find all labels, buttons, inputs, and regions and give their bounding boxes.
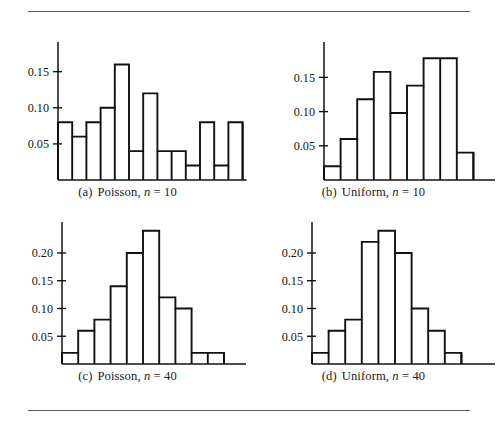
caption-b-text: Uniform, (342, 185, 389, 199)
histogram-panel-c: 0.050.100.150.20 (c)Poisson, n = 40 (6, 210, 249, 396)
histogram-svg-c: 0.050.100.150.20 (6, 210, 249, 372)
y-tick-label-0.15: 0.15 (294, 71, 315, 85)
y-tick-label-0.05: 0.05 (32, 330, 53, 344)
caption-b: (b)Uniform, n = 10 (252, 185, 495, 200)
histogram-panel-b: 0.050.100.15 (b)Uniform, n = 10 (252, 28, 495, 214)
figure-container: 0.050.100.15 (a)Poisson, n = 10 0.050.10… (0, 0, 498, 426)
caption-c-var: n (144, 369, 150, 383)
histogram-panel-d: 0.050.100.150.20 (d)Uniform, n = 40 (252, 210, 495, 396)
caption-c-eq: = 40 (154, 369, 177, 383)
y-tick-label-0.10: 0.10 (32, 302, 53, 316)
panel-grid: 0.050.100.15 (a)Poisson, n = 10 0.050.10… (0, 20, 498, 398)
caption-c-label: (c) (78, 369, 92, 383)
y-tick-label-0.20: 0.20 (282, 246, 303, 260)
caption-c: (c)Poisson, n = 40 (6, 369, 249, 384)
top-horizontal-rule (28, 11, 470, 12)
caption-d-eq: = 40 (402, 369, 425, 383)
y-tick-label-0.10: 0.10 (282, 302, 303, 316)
caption-d: (d)Uniform, n = 40 (252, 369, 495, 384)
caption-b-label: (b) (322, 185, 337, 199)
histogram-outline (324, 58, 473, 180)
y-tick-label-0.20: 0.20 (32, 246, 53, 260)
caption-a-label: (a) (78, 185, 92, 199)
y-tick-label-0.05: 0.05 (294, 139, 315, 153)
caption-a-eq: = 10 (154, 185, 177, 199)
y-tick-label-0.15: 0.15 (28, 65, 49, 79)
y-tick-label-0.15: 0.15 (282, 274, 303, 288)
histogram-svg-d: 0.050.100.150.20 (252, 210, 495, 372)
y-tick-label-0.05: 0.05 (282, 330, 303, 344)
histogram-panel-a: 0.050.100.15 (a)Poisson, n = 10 (6, 28, 249, 214)
caption-c-text: Poisson, (97, 369, 140, 383)
y-tick-label-0.15: 0.15 (32, 274, 53, 288)
caption-d-label: (d) (322, 369, 337, 383)
histogram-outline (312, 231, 461, 364)
histogram-svg-a: 0.050.100.15 (6, 28, 249, 188)
y-tick-label-0.10: 0.10 (294, 105, 315, 119)
caption-a-text: Poisson, (97, 185, 140, 199)
caption-d-text: Uniform, (342, 369, 389, 383)
bottom-horizontal-rule (28, 410, 470, 411)
y-tick-label-0.05: 0.05 (28, 137, 49, 151)
caption-b-var: n (392, 185, 398, 199)
histogram-svg-b: 0.050.100.15 (252, 28, 495, 188)
caption-b-eq: = 10 (402, 185, 425, 199)
y-tick-label-0.10: 0.10 (28, 101, 49, 115)
caption-a-var: n (144, 185, 150, 199)
caption-a: (a)Poisson, n = 10 (6, 185, 249, 200)
caption-d-var: n (392, 369, 398, 383)
